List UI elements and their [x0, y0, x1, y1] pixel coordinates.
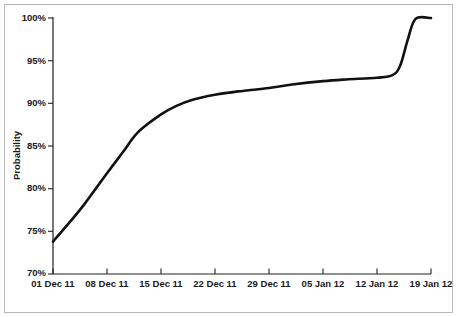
- x-tick-label-4: 29 Dec 11: [247, 278, 291, 289]
- y-tick-label-70: 70%: [27, 267, 47, 278]
- probability-line-chart: Probability 100% 95% 90% 85% 80% 75% 70%: [0, 0, 457, 317]
- x-tick-label-1: 08 Dec 11: [85, 278, 129, 289]
- x-tick-label-6: 12 Jan 12: [356, 278, 399, 289]
- probability-series-line: [53, 17, 431, 242]
- chart-canvas: Probability 100% 95% 90% 85% 80% 75% 70%: [0, 0, 457, 317]
- y-tick-label-95: 95%: [27, 55, 47, 66]
- y-tick-label-85: 85%: [27, 140, 47, 151]
- x-tick-label-2: 15 Dec 11: [139, 278, 183, 289]
- x-tick-label-3: 22 Dec 11: [193, 278, 237, 289]
- y-tick-label-90: 90%: [27, 97, 47, 108]
- y-tick-label-100: 100%: [22, 12, 47, 23]
- x-tick-label-7: 19 Jan 12: [410, 278, 453, 289]
- y-tick-label-80: 80%: [27, 182, 47, 193]
- y-axis-label: Probability: [11, 130, 22, 180]
- chart-screenshot: Probability 100% 95% 90% 85% 80% 75% 70%: [0, 0, 457, 317]
- y-tick-label-75: 75%: [27, 225, 47, 236]
- x-tick-label-5: 05 Jan 12: [302, 278, 345, 289]
- chart-axes: [53, 17, 431, 274]
- x-tick-label-0: 01 Dec 11: [31, 278, 75, 289]
